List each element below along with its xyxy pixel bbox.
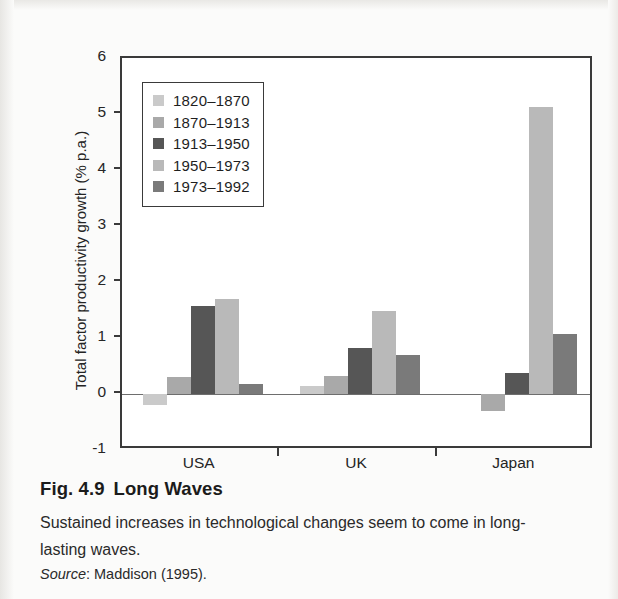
bar-usa-1950-1973 bbox=[215, 299, 239, 394]
legend-label: 1950–1973 bbox=[173, 157, 250, 174]
legend-item: 1913–1950 bbox=[153, 133, 250, 155]
bar-usa-1913-1950 bbox=[191, 306, 215, 394]
caption-body: Sustained increases in technological cha… bbox=[40, 509, 570, 563]
bar-usa-1870-1913 bbox=[167, 377, 191, 394]
y-tick-label: 3 bbox=[97, 215, 106, 233]
bar-uk-1820-1870 bbox=[300, 386, 324, 394]
legend-item: 1950–1973 bbox=[153, 155, 250, 177]
figure-number: Fig. 4.9 bbox=[40, 478, 105, 499]
bar-japan-1950-1973 bbox=[529, 107, 553, 394]
legend-label: 1870–1913 bbox=[173, 114, 250, 131]
chart-legend: 1820–18701870–19131913–19501950–19731973… bbox=[142, 82, 264, 207]
bar-japan-1913-1950 bbox=[505, 373, 529, 394]
y-tick-label: 0 bbox=[97, 383, 106, 401]
y-tick-label: 4 bbox=[97, 159, 106, 177]
bar-japan-1870-1913 bbox=[481, 394, 505, 411]
legend-item: 1973–1992 bbox=[153, 176, 250, 198]
source-text: : Maddison (1995). bbox=[86, 566, 207, 582]
legend-swatch-icon bbox=[153, 181, 164, 192]
figure-page: Total factor productivity growth (% p.a.… bbox=[0, 0, 618, 599]
legend-swatch-icon bbox=[153, 95, 164, 106]
figure-caption: Fig. 4.9Long Waves Sustained increases i… bbox=[40, 478, 570, 582]
bar-group bbox=[300, 58, 420, 446]
legend-swatch-icon bbox=[153, 160, 164, 171]
bar-uk-1870-1913 bbox=[324, 376, 348, 394]
legend-label: 1913–1950 bbox=[173, 135, 250, 152]
x-category-label: Japan bbox=[492, 454, 534, 472]
legend-swatch-icon bbox=[153, 138, 164, 149]
figure-title: Long Waves bbox=[114, 478, 223, 499]
bar-usa-1973-1992 bbox=[239, 384, 263, 394]
y-tick-label: 2 bbox=[97, 271, 106, 289]
bar-uk-1950-1973 bbox=[372, 311, 396, 394]
y-tick-label: 6 bbox=[97, 47, 106, 65]
legend-swatch-icon bbox=[153, 117, 164, 128]
bar-uk-1973-1992 bbox=[396, 355, 420, 394]
bar-japan-1973-1992 bbox=[553, 334, 577, 394]
bar-group bbox=[457, 58, 577, 446]
bar-usa-1820-1870 bbox=[143, 394, 167, 405]
page-edge-shading-top bbox=[0, 0, 618, 10]
caption-title-line: Fig. 4.9Long Waves bbox=[40, 478, 570, 500]
bar-uk-1913-1950 bbox=[348, 348, 372, 394]
y-tick-label: 5 bbox=[97, 103, 106, 121]
legend-item: 1870–1913 bbox=[153, 112, 250, 134]
x-axis-category-labels: USAUKJapan bbox=[120, 454, 592, 478]
legend-label: 1973–1992 bbox=[173, 178, 250, 195]
x-category-label: UK bbox=[345, 454, 367, 472]
chart-figure: Total factor productivity growth (% p.a.… bbox=[14, 14, 604, 464]
x-category-label: USA bbox=[183, 454, 215, 472]
y-tick-label: -1 bbox=[92, 439, 106, 457]
source-label: Source bbox=[40, 566, 86, 582]
y-axis-tick-labels: -10123456 bbox=[74, 56, 116, 448]
legend-label: 1820–1870 bbox=[173, 92, 250, 109]
page-edge-shading-left bbox=[0, 0, 14, 599]
y-tick-label: 1 bbox=[97, 327, 106, 345]
y-axis-title-container: Total factor productivity growth (% p.a.… bbox=[32, 56, 62, 448]
legend-item: 1820–1870 bbox=[153, 90, 250, 112]
page-edge-shading-right bbox=[608, 0, 618, 599]
caption-source: Source: Maddison (1995). bbox=[40, 566, 570, 582]
